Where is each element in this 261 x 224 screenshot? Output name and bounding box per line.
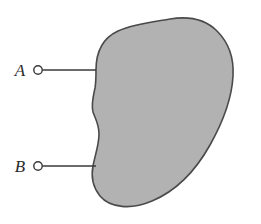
- terminal-b-node[interactable]: [34, 162, 42, 170]
- figure-canvas: A B: [0, 0, 261, 224]
- network-diagram: A B: [0, 0, 261, 224]
- terminal-b-label: B: [15, 157, 26, 176]
- terminal-a-node[interactable]: [34, 66, 42, 74]
- terminal-a-label: A: [14, 61, 26, 80]
- shaded-network-region: [92, 18, 233, 207]
